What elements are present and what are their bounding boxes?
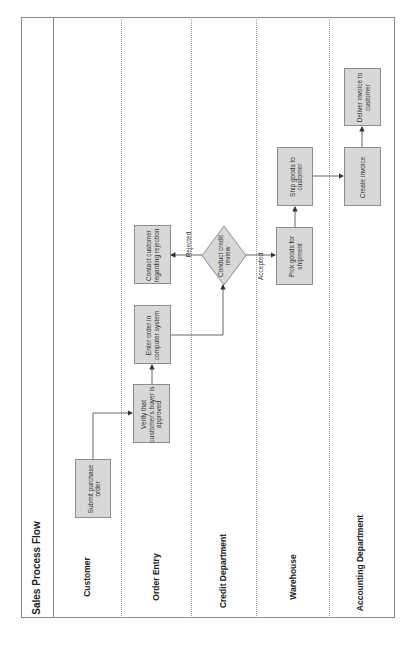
node-label: Enter order in computer system [135,306,170,365]
title-separator [53,17,54,618]
lane-separator [121,17,122,618]
node-label: Create invoice [345,148,380,207]
node-label: Submit purchase order [77,460,111,519]
swimlane-frame [21,17,395,618]
edge-label-accepted: Accepted [256,247,265,287]
lane-separator [256,17,257,618]
node-deliver-invoice[interactable]: Deliver invoice to customer [344,68,381,126]
node-label: Deliver invoice to customer [346,69,381,127]
diagram-title: Sales Process Flow [31,518,43,618]
node-submit-purchase-order[interactable]: Submit purchase order [75,459,111,518]
node-credit-review-label: Conduct credit review [216,231,232,281]
node-contact-customer[interactable]: Contact customer regarding rejection [134,225,171,284]
lane-separator [329,17,330,618]
lane-label-credit-department: Credit Department [217,521,229,621]
lane-label-accounting-department: Accounting Department [354,503,366,623]
node-ship-goods[interactable]: Ship goods to customer [277,147,313,206]
node-label: Verify that customer's buyer is approved [134,385,169,444]
node-verify-buyer[interactable]: Verify that customer's buyer is approved [133,384,170,443]
edge-label-rejected: Rejected [184,225,193,265]
node-enter-order[interactable]: Enter order in computer system [134,305,171,364]
lane-label-warehouse: Warehouse [287,537,299,617]
lane-label-order-entry: Order Entry [150,537,162,617]
lane-separator [191,17,192,618]
node-pick-goods[interactable]: Pick goods for shipment [276,227,313,285]
node-create-invoice[interactable]: Create invoice [344,147,381,206]
lane-label-customer: Customer [81,537,93,617]
node-label: Contact customer regarding rejection [135,226,170,285]
node-label: Ship goods to customer [279,148,313,207]
node-label: Pick goods for shipment [278,228,313,286]
